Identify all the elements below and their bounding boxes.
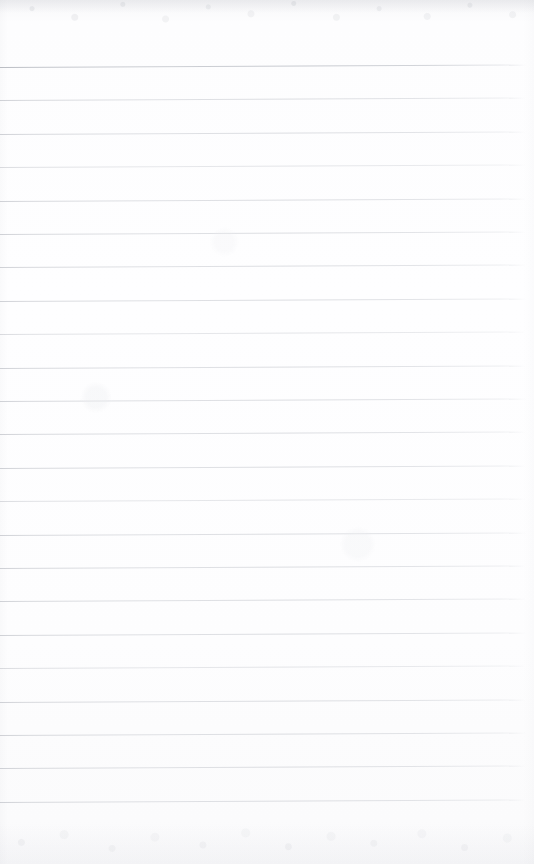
notebook-page [0, 0, 534, 864]
page-writing-area[interactable] [0, 67, 526, 802]
